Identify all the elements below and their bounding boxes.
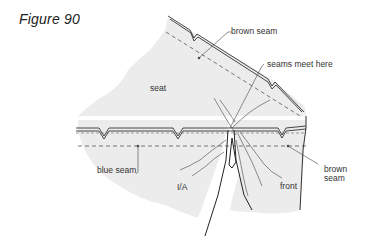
label-seat: seat <box>150 84 166 93</box>
figure-canvas: Figure 90 <box>0 0 370 247</box>
label-seams-meet-here: seams meet here <box>267 60 333 69</box>
label-front: front <box>280 182 297 191</box>
label-ia: I/A <box>177 183 187 192</box>
seam-diagram <box>0 0 370 247</box>
label-blue-seam: blue seam <box>97 166 136 175</box>
label-brown-seam-top: brown seam <box>231 27 277 36</box>
label-brown-seam-right-2: seam <box>324 174 345 183</box>
